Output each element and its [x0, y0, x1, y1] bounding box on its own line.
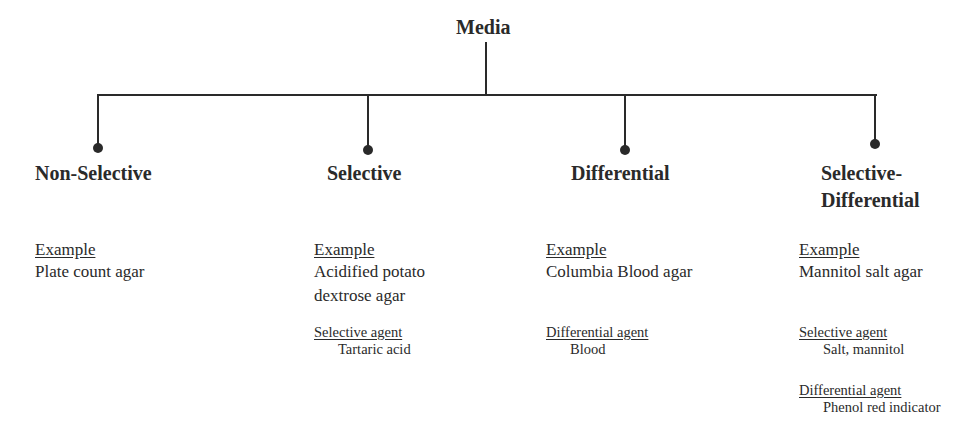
- example-value-line-2: dextrose agar: [314, 284, 425, 308]
- category-title: Selective: [327, 160, 401, 187]
- differential-agent-value: Phenol red indicator: [799, 399, 941, 416]
- category-differential: Differential: [571, 160, 670, 187]
- branch-line-selective-differential: [874, 94, 876, 144]
- branch-dot-selective-differential: [870, 139, 880, 149]
- agent-block-selective: Selective agent Tartaric acid: [314, 324, 411, 358]
- root-node-media: Media: [456, 16, 510, 39]
- branch-line-selective: [367, 94, 369, 150]
- agent-block-selective-sd: Selective agent Salt, mannitol: [799, 324, 904, 358]
- branch-line-non-selective: [97, 94, 99, 148]
- selective-agent-label: Selective agent: [314, 324, 411, 341]
- example-block-selective: Example Acidified potato dextrose agar: [314, 240, 425, 308]
- example-block-selective-differential: Example Mannitol salt agar: [799, 240, 923, 284]
- example-value-line-1: Acidified potato: [314, 260, 425, 284]
- category-selective-differential: Selective- Differential: [821, 160, 920, 214]
- example-value: Mannitol salt agar: [799, 260, 923, 284]
- example-label: Example: [35, 240, 145, 260]
- branch-dot-non-selective: [93, 143, 103, 153]
- branch-dot-differential: [620, 145, 630, 155]
- example-label: Example: [546, 240, 692, 260]
- example-block-non-selective: Example Plate count agar: [35, 240, 145, 284]
- example-value: Columbia Blood agar: [546, 260, 692, 284]
- differential-agent-value: Blood: [546, 341, 648, 358]
- horizontal-branch-line: [97, 94, 877, 96]
- example-value: Plate count agar: [35, 260, 145, 284]
- branch-dot-selective: [363, 145, 373, 155]
- example-block-differential: Example Columbia Blood agar: [546, 240, 692, 284]
- category-title-line-1: Selective-: [821, 160, 920, 187]
- selective-agent-label: Selective agent: [799, 324, 904, 341]
- selective-agent-value: Tartaric acid: [314, 341, 411, 358]
- category-title: Non-Selective: [35, 160, 152, 187]
- category-title: Differential: [571, 160, 670, 187]
- root-connector-line: [485, 42, 487, 96]
- agent-block-differential-sd: Differential agent Phenol red indicator: [799, 382, 941, 416]
- category-non-selective: Non-Selective: [35, 160, 152, 187]
- branch-line-differential: [624, 94, 626, 150]
- example-label: Example: [799, 240, 923, 260]
- differential-agent-label: Differential agent: [799, 382, 941, 399]
- agent-block-differential: Differential agent Blood: [546, 324, 648, 358]
- differential-agent-label: Differential agent: [546, 324, 648, 341]
- category-title-line-2: Differential: [821, 187, 920, 214]
- category-selective: Selective: [327, 160, 401, 187]
- example-label: Example: [314, 240, 425, 260]
- selective-agent-value: Salt, mannitol: [799, 341, 904, 358]
